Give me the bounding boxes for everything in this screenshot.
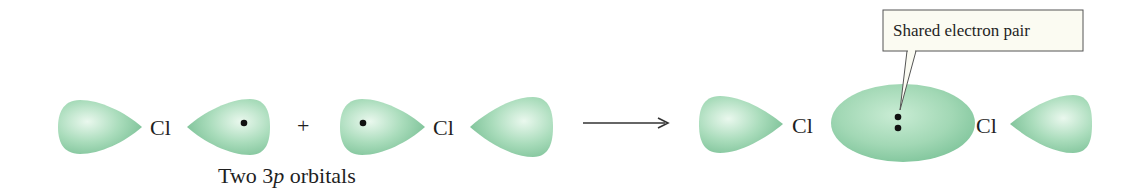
cl2-bond-formation-diagram: Cl + Cl Two 3p orbitals Cl Cl Shared ele…: [0, 0, 1142, 193]
caption-two-3p-orbitals: Two 3p orbitals: [218, 163, 356, 188]
product-orbital-lobe-right: [1010, 95, 1092, 153]
reaction-arrow: [583, 118, 668, 128]
unpaired-electron-1: [241, 120, 248, 127]
product-orbital-lobe-left: [699, 96, 783, 153]
plus-sign: +: [297, 113, 309, 138]
product-atom-symbol-cl-1: Cl: [792, 113, 813, 138]
callout-label: Shared electron pair: [893, 21, 1030, 40]
orbital-lobe-left-1: [58, 100, 142, 154]
product-atom-symbol-cl-2: Cl: [976, 113, 997, 138]
unpaired-electron-2: [360, 120, 367, 127]
orbital-lobe-left-2: [340, 99, 425, 155]
orbital-lobe-right-2: [470, 97, 553, 157]
orbital-lobe-right-1: [187, 99, 270, 155]
shared-electron-2: [895, 125, 902, 132]
atom-symbol-cl-2: Cl: [433, 115, 454, 140]
shared-electron-1: [895, 114, 902, 121]
atom-symbol-cl-1: Cl: [150, 115, 171, 140]
